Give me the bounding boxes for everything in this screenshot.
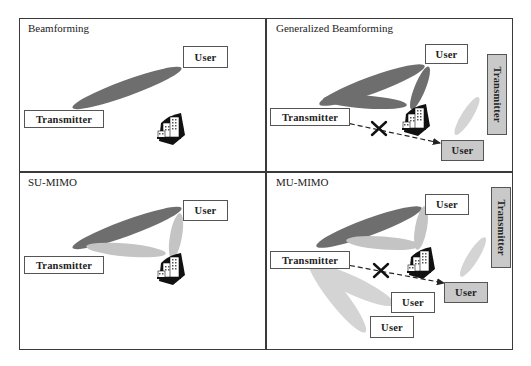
interfered-user-box: User	[444, 282, 488, 303]
panel-title-beamforming: Beamforming	[28, 22, 89, 34]
user-box: User	[183, 46, 228, 68]
user-label: User	[195, 52, 217, 63]
user-box: User	[425, 44, 468, 64]
beam-interfering	[456, 235, 490, 280]
panel-title-generalized-beamforming: Generalized Beamforming	[276, 22, 393, 34]
user-label: User	[195, 205, 217, 216]
transmitter-box: Transmitter	[24, 256, 104, 274]
transmitter-label: Transmitter	[36, 260, 92, 271]
user-label: User	[402, 297, 424, 308]
building-obstacle-icon	[157, 113, 185, 145]
building-obstacle-icon	[407, 247, 435, 279]
interfering-transmitter-box: Transmitter	[487, 54, 507, 135]
user-box: User	[425, 194, 469, 215]
beam-main	[70, 61, 184, 116]
transmitter-box: Transmitter	[270, 251, 350, 269]
interfered-user-label: User	[455, 287, 477, 298]
interfering-transmitter-box: Transmitter	[491, 187, 511, 268]
building-obstacle-icon	[402, 104, 430, 136]
interfered-user-label: User	[452, 145, 474, 156]
user-box: User	[370, 316, 414, 338]
user-label: User	[436, 199, 458, 210]
user-box: User	[391, 292, 435, 313]
interfered-user-box: User	[441, 140, 484, 161]
beam-reflect-1	[346, 234, 421, 252]
transmitter-box: Transmitter	[270, 108, 350, 126]
transmitter-box: Transmitter	[24, 110, 104, 128]
user-label: User	[381, 322, 403, 333]
user-box: User	[183, 200, 228, 221]
transmitter-label: Transmitter	[282, 112, 338, 123]
transmitter-label: Transmitter	[36, 114, 92, 125]
interfering-transmitter-label: Transmitter	[496, 199, 507, 255]
building-obstacle-icon	[157, 253, 185, 285]
panel-title-mu-mimo: MU-MIMO	[276, 176, 329, 188]
transmitter-label: Transmitter	[282, 255, 338, 266]
beam-interfering	[451, 94, 484, 137]
figure-canvas: Beamforming User Transmitter Generalized…	[0, 0, 531, 366]
panel-title-su-mimo: SU-MIMO	[28, 176, 77, 188]
interfering-transmitter-label: Transmitter	[492, 66, 503, 122]
user-label: User	[436, 49, 458, 60]
